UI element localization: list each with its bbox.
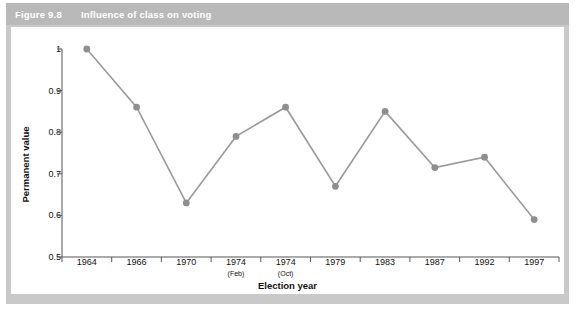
x-tick-label-year: 1987 <box>425 257 445 267</box>
figure-title: Influence of class on voting <box>81 9 212 20</box>
figure-header: Figure 9.8 Influence of class on voting <box>6 3 569 25</box>
data-point <box>133 104 140 111</box>
data-series-line <box>87 49 534 220</box>
y-tick-marks <box>57 49 62 257</box>
line-chart <box>11 27 564 294</box>
x-tick-label-year: 1997 <box>524 257 544 267</box>
plot-card: Permanent value 0.50.60.70.80.91 Electio… <box>11 27 564 294</box>
data-point <box>183 200 190 207</box>
figure-container: Figure 9.8 Influence of class on voting … <box>6 3 569 304</box>
data-point <box>531 216 538 223</box>
x-tick-label-year: 1966 <box>127 257 147 267</box>
x-tick-label-year: 1974 <box>226 257 246 267</box>
data-point <box>332 183 339 190</box>
x-tick-label-month: (Oct) <box>251 268 321 279</box>
data-point <box>233 133 240 140</box>
data-point <box>431 164 438 171</box>
x-tick-label: 1997 <box>499 257 569 268</box>
x-tick-label-year: 1979 <box>325 257 345 267</box>
data-point <box>481 154 488 161</box>
data-point <box>382 108 389 115</box>
x-tick-label-year: 1970 <box>176 257 196 267</box>
chart-axes <box>62 49 559 257</box>
data-point <box>282 104 289 111</box>
x-tick-label-year: 1974 <box>276 257 296 267</box>
x-tick-label-year: 1992 <box>474 257 494 267</box>
x-tick-label-year: 1964 <box>77 257 97 267</box>
data-point <box>83 46 90 53</box>
x-axis-label: Election year <box>11 280 564 291</box>
x-tick-label-year: 1983 <box>375 257 395 267</box>
figure-number: Figure 9.8 <box>15 9 62 20</box>
